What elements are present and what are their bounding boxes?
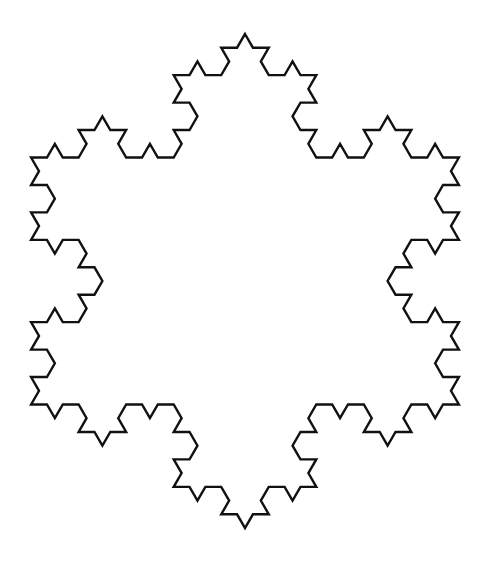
koch-snowflake-figure bbox=[0, 0, 487, 562]
koch-snowflake-outline bbox=[31, 34, 459, 528]
